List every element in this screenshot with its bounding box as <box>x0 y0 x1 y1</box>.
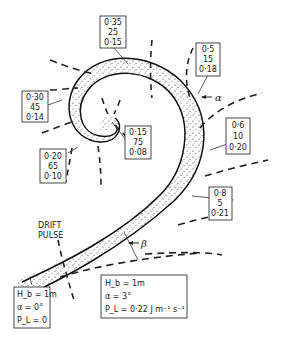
legend-left: H_b = 1m α = 0° P_L = 0 <box>14 287 57 328</box>
svg-text:0·08: 0·08 <box>129 148 147 157</box>
pulse-label: PULSE <box>38 231 63 240</box>
svg-text:65: 65 <box>48 162 58 171</box>
svg-text:15: 15 <box>203 55 213 64</box>
svg-text:0·15: 0·15 <box>129 128 147 137</box>
drift-label: DRIFT <box>38 221 62 230</box>
svg-text:P_L = 0·22 J m⁻¹ s⁻¹: P_L = 0·22 J m⁻¹ s⁻¹ <box>105 305 185 314</box>
svg-text:0·20: 0·20 <box>229 143 247 152</box>
station-box-4: 0·15 75 0·08 <box>125 126 151 159</box>
svg-text:0·15: 0·15 <box>104 38 122 47</box>
svg-text:0·6: 0·6 <box>232 121 245 130</box>
svg-text:H_b = 1m: H_b = 1m <box>105 279 145 288</box>
svg-text:α = 0°: α = 0° <box>17 303 43 312</box>
svg-text:0·14: 0·14 <box>26 113 44 122</box>
svg-text:25: 25 <box>108 28 118 37</box>
svg-text:P_L = 0: P_L = 0 <box>17 316 47 325</box>
station-box-5: 0·6 10 0·20 <box>226 118 250 154</box>
legend-right: H_b = 1m α = 3° P_L = 0·22 J m⁻¹ s⁻¹ <box>101 275 187 318</box>
svg-text:5: 5 <box>217 199 222 208</box>
svg-text:0·8: 0·8 <box>214 189 227 198</box>
svg-text:0·35: 0·35 <box>104 18 122 27</box>
beta-arrow: β <box>128 238 147 249</box>
svg-text:H_b = 1m: H_b = 1m <box>17 290 57 299</box>
diagram-canvas: α β DRIFT PULSE 0·35 25 0·15 0·5 15 0·18… <box>0 0 281 350</box>
svg-text:α = 3°: α = 3° <box>105 292 131 301</box>
svg-text:75: 75 <box>133 138 143 147</box>
svg-text:10: 10 <box>233 132 243 141</box>
station-box-1: 0·35 25 0·15 <box>100 16 126 48</box>
svg-text:0·20: 0·20 <box>44 152 62 161</box>
svg-text:45: 45 <box>30 103 40 112</box>
station-box-6: 0·20 65 0·10 <box>40 149 66 183</box>
station-box-2: 0·5 15 0·18 <box>196 43 220 76</box>
svg-text:0·5: 0·5 <box>202 45 215 54</box>
svg-text:0·10: 0·10 <box>44 172 62 181</box>
beta-label: β <box>140 238 147 249</box>
svg-text:0·21: 0·21 <box>211 209 229 218</box>
alpha-label: α <box>215 92 222 103</box>
svg-text:0·30: 0·30 <box>26 93 44 102</box>
station-box-7: 0·8 5 0·21 <box>209 187 232 220</box>
alpha-arrow: α <box>201 92 222 103</box>
svg-text:0·18: 0·18 <box>199 65 217 74</box>
station-box-3: 0·30 45 0·14 <box>22 91 48 122</box>
